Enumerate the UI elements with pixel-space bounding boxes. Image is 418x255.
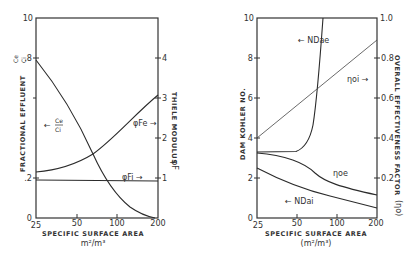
- y-left-tick-label: .2: [24, 173, 32, 183]
- ce-ci-label-den: Ci: [55, 126, 61, 133]
- y-left-tick-label: 6: [248, 93, 253, 103]
- phi-fi-label: φFi →: [122, 173, 143, 182]
- x-tick-label: 50: [292, 218, 302, 228]
- y-left-tick-label: 10: [23, 13, 33, 23]
- y-right-axis-label: OVERALL EFFECTIVENESS FACTOR: [393, 55, 401, 196]
- y-left-tick-label: 10: [244, 13, 254, 23]
- y-left-axis-label: DAM KOHLER NO.: [239, 88, 247, 160]
- x-axis-label: SPECIFIC SURFACE AREA: [42, 230, 144, 238]
- y-left-tick-label: 2: [248, 173, 253, 183]
- ndae-label: ← NDae: [298, 36, 329, 45]
- svg-text:Ce: Ce: [12, 55, 19, 63]
- y-left-tick-label: 8: [248, 53, 253, 63]
- right-chart: 10 8 6 4 2 0 1.0 0.8 0.6 0.4 0.2 25 50 1…: [239, 13, 403, 248]
- y-right-tick-label: 0.8: [381, 53, 394, 63]
- y-right-tick-label: 4: [162, 53, 167, 63]
- x-tick-label: 50: [72, 218, 82, 228]
- svg-text:Ci: Ci: [20, 57, 27, 63]
- y-right-tick-label: 3: [162, 93, 167, 103]
- phi-fe-label: φFe →: [133, 119, 157, 128]
- eta-o-symbol: (ηo): [394, 200, 403, 216]
- phi-fe-curve: [36, 95, 158, 172]
- eta-oi-line: [257, 40, 377, 138]
- ce-ci-label-num: Ce: [55, 117, 63, 124]
- y-right-axis-label: THIELE MODULUS: [170, 92, 178, 165]
- y-right-tick-label: 0.6: [381, 93, 394, 103]
- x-axis-label: SPECIFIC SURFACE AREA: [265, 230, 367, 238]
- x-tick-label: 100: [109, 218, 124, 228]
- x-tick-label: 25: [31, 220, 41, 230]
- ce-ci-arrow: ←: [44, 121, 51, 130]
- y-left-tick-label: 4: [248, 133, 253, 143]
- figure: 10 .8 .2 0 4 3 2 1 25 50 100 200 FRACTIO…: [0, 0, 418, 255]
- y-right-tick-label: 0.2: [381, 173, 394, 183]
- phi-f-symbol: φF: [170, 160, 179, 170]
- y-right-tick-label: 2: [162, 133, 167, 143]
- x-axis-units: (m²/m³): [301, 239, 332, 248]
- left-chart: 10 .8 .2 0 4 3 2 1 25 50 100 200 FRACTIO…: [12, 13, 179, 248]
- y-right-tick-label: 0.4: [381, 133, 394, 143]
- y-right-tick-label: 1.0: [380, 13, 393, 23]
- right-plot-frame: [257, 18, 377, 218]
- eta-oe-curve: [257, 153, 377, 195]
- ce-ci-curve: [36, 60, 155, 218]
- ndai-label: ← NDai: [285, 197, 314, 206]
- eta-oe-label: ηoe: [333, 169, 348, 178]
- y-right-tick-label: 1: [162, 173, 167, 183]
- eta-oi-label: ηoi →: [347, 75, 369, 84]
- y-left-axis-label: FRACTIONAL EFFLUENT: [19, 75, 27, 172]
- x-tick-label: 200: [150, 218, 165, 228]
- x-tick-label: 25: [253, 220, 263, 230]
- x-tick-label: 200: [368, 218, 383, 228]
- x-tick-label: 100: [329, 218, 344, 228]
- x-axis-units: m²/m³: [81, 239, 106, 248]
